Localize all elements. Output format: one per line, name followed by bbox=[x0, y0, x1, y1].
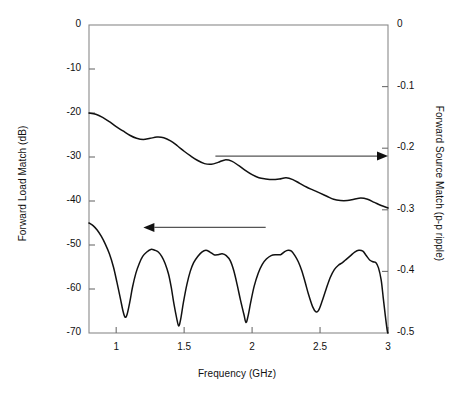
y-right-tick-label: -0.1 bbox=[397, 80, 447, 91]
x-tick-label: 2.5 bbox=[300, 341, 340, 352]
y-right-tick-label: -0.5 bbox=[397, 326, 447, 337]
y-left-tick-label: -40 bbox=[33, 194, 81, 205]
curve-load-match bbox=[89, 223, 388, 333]
x-tick-label: 1.5 bbox=[164, 341, 204, 352]
plot-frame bbox=[89, 25, 388, 333]
y-axis-right-ticks bbox=[382, 87, 388, 272]
x-axis-title: Frequency (GHz) bbox=[147, 368, 327, 379]
curve-source-match bbox=[89, 113, 388, 208]
arrow-to-left-axis-head bbox=[143, 223, 154, 232]
y-left-tick-label: -60 bbox=[33, 282, 81, 293]
y-left-tick-label: -70 bbox=[33, 326, 81, 337]
y-axis-left-title: Forward Load Match (dB) bbox=[17, 104, 28, 264]
x-axis-ticks bbox=[116, 327, 388, 333]
y-right-tick-label: -0.3 bbox=[397, 203, 447, 214]
x-tick-label: 2 bbox=[232, 341, 272, 352]
x-tick-label: 1 bbox=[96, 341, 136, 352]
arrow-to-right-axis-head bbox=[377, 152, 388, 161]
y-axis-right-title: Forward Source Match (p-p ripple) bbox=[434, 89, 445, 279]
y-left-tick-label: -50 bbox=[33, 238, 81, 249]
y-axis-left-ticks bbox=[89, 69, 95, 289]
chart-figure: Forward Load Match (dB) Forward Source M… bbox=[0, 0, 454, 397]
y-right-tick-label: 0 bbox=[397, 18, 447, 29]
y-left-tick-label: -20 bbox=[33, 106, 81, 117]
y-left-tick-label: -30 bbox=[33, 150, 81, 161]
data-curves bbox=[89, 113, 388, 333]
annotation-arrows bbox=[143, 152, 388, 232]
x-tick-label: 3 bbox=[368, 341, 408, 352]
y-left-tick-label: 0 bbox=[33, 18, 81, 29]
y-right-tick-label: -0.2 bbox=[397, 141, 447, 152]
y-right-tick-label: -0.4 bbox=[397, 264, 447, 275]
y-left-tick-label: -10 bbox=[33, 62, 81, 73]
